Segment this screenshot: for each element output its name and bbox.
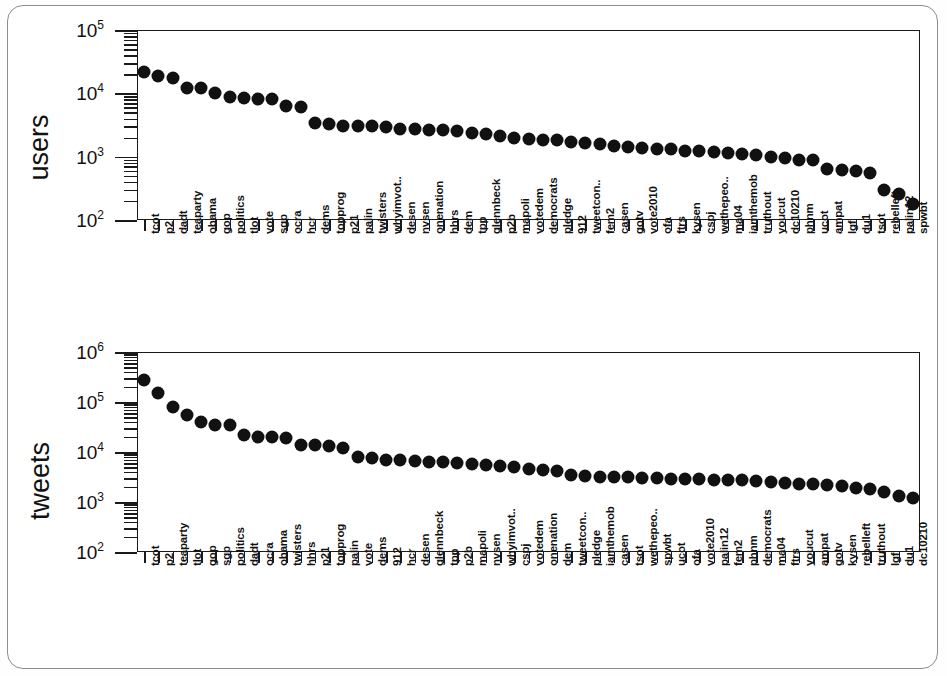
x-axis-tick	[201, 220, 203, 231]
x-axis-tick	[386, 220, 388, 231]
x-axis-tick	[856, 552, 858, 563]
y-axis-label: 105	[32, 18, 104, 41]
data-point	[408, 455, 421, 468]
x-axis-tick	[571, 220, 573, 231]
x-axis-tick	[913, 220, 915, 231]
y-minor-tick	[124, 36, 137, 38]
data-point	[237, 92, 250, 105]
plot-area-tweets	[137, 352, 920, 552]
panel-tweets: tweets 102103104105106tcotp2teapartytlot…	[0, 330, 947, 676]
y-minor-tick	[124, 96, 137, 98]
y-minor-tick	[124, 463, 137, 465]
panel-users: users 102103104105tcotp2dadtteapartyobam…	[0, 0, 947, 330]
x-axis-tick	[230, 552, 232, 563]
y-minor-tick	[124, 517, 137, 519]
y-minor-tick	[124, 510, 137, 512]
x-axis-tick	[699, 552, 701, 563]
x-axis-tick	[187, 220, 189, 231]
data-point	[394, 454, 407, 467]
y-axis-label: 104	[32, 440, 104, 463]
y-minor-tick	[124, 372, 137, 374]
data-point	[650, 472, 663, 485]
x-axis-tick	[144, 220, 146, 231]
x-axis-label: dc10210	[917, 522, 929, 566]
data-point	[138, 65, 151, 78]
data-point	[437, 124, 450, 137]
data-point	[736, 474, 749, 487]
x-axis-tick	[272, 220, 274, 231]
data-point	[494, 130, 507, 143]
x-axis-tick	[884, 552, 886, 563]
x-axis-tick	[899, 552, 901, 563]
x-axis-tick	[514, 552, 516, 563]
data-point	[906, 492, 919, 505]
y-minor-tick	[124, 507, 137, 509]
data-point	[792, 477, 805, 490]
figure-root: users 102103104105tcotp2dadtteapartyobam…	[0, 0, 947, 676]
x-axis-tick	[742, 220, 744, 231]
x-axis-tick	[457, 552, 459, 563]
y-minor-tick	[124, 457, 137, 459]
x-axis-tick	[173, 552, 175, 563]
data-point	[636, 142, 649, 155]
x-axis-tick	[244, 552, 246, 563]
data-point	[237, 428, 250, 441]
data-point	[778, 476, 791, 489]
x-axis-tick	[158, 552, 160, 563]
y-minor-tick	[124, 360, 137, 362]
x-axis-tick	[870, 552, 872, 563]
x-axis-tick	[884, 220, 886, 231]
data-point	[550, 464, 563, 477]
data-point	[764, 150, 777, 163]
x-axis-tick	[187, 552, 189, 563]
y-minor-tick	[124, 182, 137, 184]
x-axis-tick	[358, 552, 360, 563]
y-minor-tick	[124, 190, 137, 192]
x-axis-tick	[429, 220, 431, 231]
data-point	[522, 463, 535, 476]
y-minor-tick	[124, 467, 137, 469]
y-minor-tick	[124, 99, 137, 101]
x-axis-tick	[813, 552, 815, 563]
x-axis-tick	[728, 552, 730, 563]
data-point	[365, 120, 378, 133]
x-axis-tick	[301, 552, 303, 563]
y-minor-tick	[124, 404, 137, 406]
data-point	[195, 82, 208, 95]
x-axis-tick	[201, 552, 203, 563]
y-axis-label: 103	[32, 145, 104, 168]
data-point	[323, 440, 336, 453]
data-point	[849, 164, 862, 177]
data-point	[622, 141, 635, 154]
x-axis-tick	[144, 552, 146, 563]
data-point	[607, 139, 620, 152]
x-axis-tick	[557, 220, 559, 231]
data-point	[280, 432, 293, 445]
data-point	[365, 452, 378, 465]
y-minor-tick	[124, 126, 137, 128]
x-axis-tick	[756, 552, 758, 563]
x-axis-tick	[699, 220, 701, 231]
x-axis-tick	[429, 552, 431, 563]
y-minor-tick	[124, 487, 137, 489]
data-point	[451, 125, 464, 138]
data-point	[607, 471, 620, 484]
y-minor-tick	[124, 138, 137, 140]
data-point	[280, 100, 293, 113]
data-point	[323, 117, 336, 130]
x-axis-tick	[571, 552, 573, 563]
y-minor-tick	[124, 166, 137, 168]
data-point	[351, 450, 364, 463]
y-minor-tick	[124, 478, 137, 480]
x-axis-tick	[870, 220, 872, 231]
x-axis-tick	[415, 552, 417, 563]
data-point	[223, 91, 236, 104]
data-point	[849, 482, 862, 495]
x-axis-tick	[230, 220, 232, 231]
x-axis-tick	[813, 220, 815, 231]
x-axis-tick	[628, 552, 630, 563]
x-axis-tick	[500, 220, 502, 231]
x-axis-tick	[756, 220, 758, 231]
y-major-tick	[115, 220, 137, 222]
y-minor-tick	[124, 44, 137, 46]
